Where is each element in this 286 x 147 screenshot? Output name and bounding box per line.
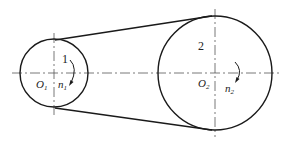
belt-drive-diagram: 1 O1 n1 2 O2 n2: [0, 0, 286, 147]
small-pulley-speed-label: n1: [58, 78, 67, 92]
large-pulley-speed-label: n2: [225, 82, 235, 96]
arrowhead-large-icon: [235, 77, 240, 83]
small-pulley-number: 1: [62, 52, 68, 66]
small-pulley-center-label: O1: [36, 78, 47, 92]
large-pulley-center-label: O2: [198, 77, 210, 91]
belt-top-segment: [55, 16, 212, 40]
rotation-arrow-icon-small: [70, 60, 74, 83]
arrowhead-small-icon: [69, 80, 74, 86]
large-pulley-number: 2: [198, 39, 204, 53]
rotation-arrow-icon-large: [235, 62, 240, 80]
belt-bottom-segment: [55, 108, 212, 130]
